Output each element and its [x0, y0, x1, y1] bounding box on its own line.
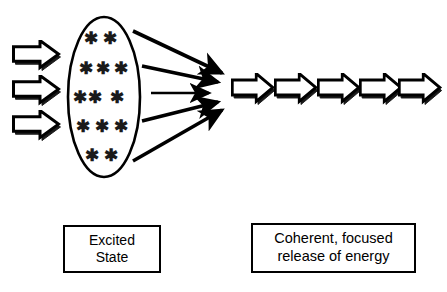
asterisk-icon: ✱	[85, 146, 99, 165]
asterisk-icon: ✱	[96, 59, 110, 78]
coherent-beam-arrow-3	[318, 74, 360, 105]
converging-emission-arrow-group	[133, 31, 222, 161]
asterisk-icon: ✱	[79, 59, 93, 78]
coherent-beam-arrow-2	[275, 74, 317, 105]
incoming-energy-arrow-3	[14, 110, 61, 140]
coherent-beam-arrow-1	[232, 74, 274, 105]
asterisk-icon: ✱	[103, 29, 117, 48]
coherent-beam-arrow-5	[399, 74, 441, 105]
excited-state-label-box: Excited State	[63, 225, 161, 273]
coherent-release-label: Coherent, focused release of energy	[274, 230, 393, 265]
asterisk-icon: ✱	[88, 88, 102, 107]
asterisk-icon: ✱	[104, 146, 118, 165]
excited-state-label: Excited State	[89, 232, 135, 266]
coherent-release-label-box: Coherent, focused release of energy	[251, 223, 416, 273]
coherent-beam-arrow-group	[232, 74, 441, 105]
asterisk-icon: ✱	[76, 117, 90, 136]
incoming-energy-arrow-1	[14, 40, 61, 70]
diagram-canvas: ✱ ✱ ✱ ✱ ✱ ✱ ✱ ✱ ✱ ✱ ✱ ✱ ✱	[0, 0, 447, 292]
asterisk-icon: ✱	[84, 29, 98, 48]
converging-arrow-2	[142, 66, 218, 82]
asterisk-icon: ✱	[95, 117, 109, 136]
asterisk-icon: ✱	[73, 88, 87, 107]
incoming-energy-arrow-2	[14, 75, 61, 105]
asterisk-icon: ✱	[114, 59, 128, 78]
asterisk-icon: ✱	[110, 88, 124, 107]
incoming-energy-arrow-group	[14, 40, 61, 140]
asterisk-icon: ✱	[114, 117, 128, 136]
coherent-beam-arrow-4	[360, 74, 402, 105]
converging-arrow-5	[133, 110, 222, 161]
